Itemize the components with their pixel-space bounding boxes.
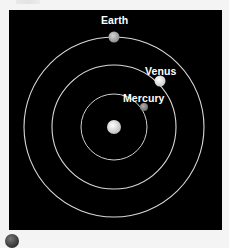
earth-planet	[109, 32, 120, 43]
orbit-diagram-svg	[9, 10, 222, 230]
cropped-text-remnant	[16, 0, 40, 4]
earth-label: Earth	[101, 14, 128, 26]
mercury-planet	[140, 103, 148, 111]
venus-label: Venus	[145, 65, 176, 77]
sun	[107, 120, 121, 134]
bullet-marker-icon	[5, 234, 19, 248]
mercury-label: Mercury	[123, 92, 165, 104]
venus-planet	[155, 76, 166, 87]
solar-system-diagram: Earth Venus Mercury	[9, 10, 222, 230]
